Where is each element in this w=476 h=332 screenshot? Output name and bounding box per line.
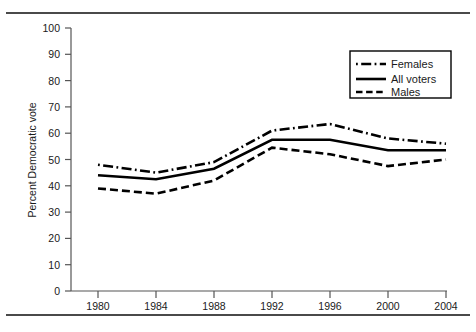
y-axis-tick-labels: 100 90 80 70 60 50 40 30 20 10 0 — [42, 22, 60, 297]
legend: Females All voters Males — [350, 51, 451, 98]
x-tick-label: 1984 — [144, 300, 168, 312]
y-tick-label: 0 — [54, 285, 60, 297]
x-axis-tick-labels: 1980 1984 1988 1992 1996 2000 2004 — [86, 300, 458, 312]
line-chart: Percent Democratic vote 100 90 80 70 60 … — [0, 0, 476, 332]
y-tick-label: 70 — [48, 101, 60, 113]
legend-label-males: Males — [391, 86, 421, 98]
y-tick-label: 100 — [42, 22, 60, 34]
x-tick-label: 1980 — [86, 300, 110, 312]
y-tick-label: 10 — [48, 259, 60, 271]
y-tick-label: 40 — [48, 180, 60, 192]
x-tick-label: 1992 — [260, 300, 284, 312]
x-tick-label: 1988 — [202, 300, 226, 312]
figure-container: Percent Democratic vote 100 90 80 70 60 … — [0, 0, 476, 332]
x-axis-ticks — [98, 291, 446, 298]
y-tick-label: 30 — [48, 206, 60, 218]
x-tick-label: 2000 — [376, 300, 400, 312]
y-tick-label: 80 — [48, 75, 60, 87]
y-tick-label: 60 — [48, 127, 60, 139]
series-line-males — [98, 148, 446, 194]
legend-label-females: Females — [391, 58, 434, 70]
y-tick-label: 20 — [48, 232, 60, 244]
x-tick-label: 1996 — [318, 300, 342, 312]
series-line-all-voters — [98, 140, 446, 179]
legend-label-all-voters: All voters — [391, 73, 437, 85]
y-tick-label: 90 — [48, 48, 60, 60]
y-axis-ticks — [65, 28, 71, 291]
y-tick-label: 50 — [48, 154, 60, 166]
y-axis-title: Percent Democratic vote — [26, 102, 38, 217]
x-tick-label: 2004 — [434, 300, 458, 312]
